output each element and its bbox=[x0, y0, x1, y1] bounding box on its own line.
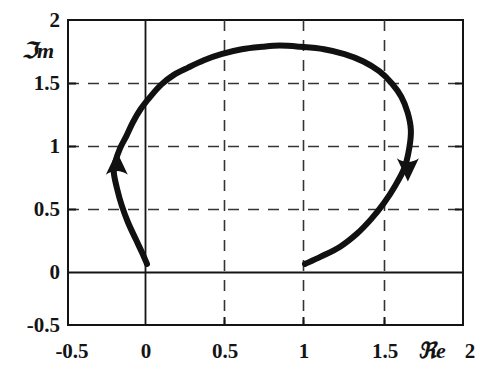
y-axis-label: ℑm bbox=[22, 40, 54, 62]
ytick-label-2: 2 bbox=[18, 10, 60, 31]
xtick-label-2: 2 bbox=[465, 341, 476, 362]
tick-marks bbox=[68, 84, 463, 326]
complex-plane-plot: 2 1.5 1 0.5 0 -0.5 ℑm -0.5 0 0.5 1 1.5 2… bbox=[0, 0, 497, 377]
left-direction-arrow-icon bbox=[106, 151, 128, 174]
ytick-label--0.5: -0.5 bbox=[0, 315, 60, 336]
xtick-label-0: 0 bbox=[141, 341, 152, 362]
ytick-label-0: 0 bbox=[18, 262, 60, 283]
ytick-label-1: 1 bbox=[18, 136, 60, 157]
xtick-label-1.5: 1.5 bbox=[372, 341, 398, 362]
xtick-label--0.5: -0.5 bbox=[55, 341, 88, 362]
contour-curve bbox=[114, 46, 411, 264]
ytick-label-0.5: 0.5 bbox=[8, 199, 60, 220]
xtick-label-0.5: 0.5 bbox=[212, 341, 238, 362]
xtick-label-1: 1 bbox=[299, 341, 310, 362]
ytick-label-1.5: 1.5 bbox=[8, 73, 60, 94]
x-axis-label: ℜe bbox=[418, 340, 446, 362]
plot-canvas bbox=[0, 0, 497, 377]
vertical-gridlines bbox=[225, 20, 385, 325]
